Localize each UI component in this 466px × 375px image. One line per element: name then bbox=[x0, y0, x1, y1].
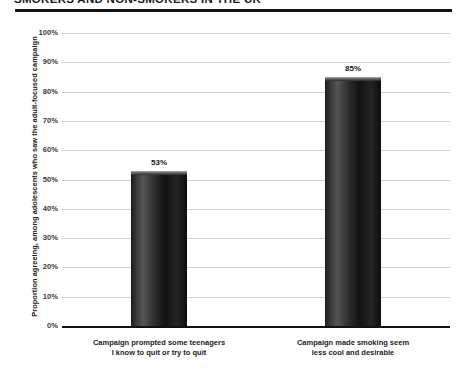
gridline bbox=[62, 33, 450, 34]
bar-top-cap bbox=[325, 78, 381, 81]
bar-value-label: 53% bbox=[129, 158, 189, 167]
gridline bbox=[62, 62, 450, 63]
x-axis-category-label: Campaign prompted some teenagersI know t… bbox=[64, 338, 254, 358]
bar[interactable] bbox=[131, 171, 187, 327]
bar[interactable] bbox=[325, 77, 381, 327]
gridline bbox=[62, 92, 450, 93]
gridline bbox=[62, 150, 450, 151]
y-axis-tick-label: 10% bbox=[14, 292, 58, 301]
y-axis-tick-label: 50% bbox=[14, 175, 58, 184]
x-axis-line bbox=[62, 326, 450, 328]
y-axis-tick-label: 30% bbox=[14, 233, 58, 242]
category-label-line: less cool and desirable bbox=[258, 348, 448, 358]
category-label-line: Campaign made smoking seem bbox=[258, 338, 448, 348]
gridline bbox=[62, 180, 450, 181]
y-axis-tick-label: 40% bbox=[14, 204, 58, 213]
gridline bbox=[62, 121, 450, 122]
plot-area: 53%85% bbox=[62, 33, 450, 326]
category-label-line: Campaign prompted some teenagers bbox=[64, 338, 254, 348]
bar-top-cap bbox=[131, 172, 187, 175]
y-axis-tick-label: 60% bbox=[14, 145, 58, 154]
category-label-line: I know to quit or try to quit bbox=[64, 348, 254, 358]
y-axis-tick-label: 90% bbox=[14, 57, 58, 66]
y-axis-tick-label: 80% bbox=[14, 87, 58, 96]
gridline bbox=[62, 297, 450, 298]
y-axis-tick-label: 100% bbox=[14, 28, 58, 37]
y-axis-tick-label: 0% bbox=[14, 321, 58, 330]
y-axis-tick-label: 70% bbox=[14, 116, 58, 125]
gridline bbox=[62, 209, 450, 210]
x-axis-category-label: Campaign made smoking seemless cool and … bbox=[258, 338, 448, 358]
bar-chart: Proportion agreeing, among adolescents w… bbox=[0, 0, 466, 375]
gridline bbox=[62, 267, 450, 268]
gridline bbox=[62, 238, 450, 239]
bar-value-label: 85% bbox=[323, 64, 383, 73]
y-axis-tick-label: 20% bbox=[14, 262, 58, 271]
